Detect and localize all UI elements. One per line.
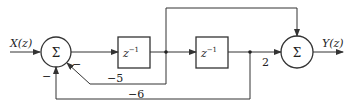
output-label: Y(z): [322, 37, 344, 50]
input-label: X(z): [9, 37, 32, 50]
feedforward-path: [166, 8, 297, 52]
sign-feedback-1: −: [72, 58, 81, 71]
feedback-path-2: [56, 52, 250, 99]
gain-feedback-1: −5: [107, 72, 123, 85]
summer2-symbol: Σ: [293, 46, 301, 60]
summer1-symbol: Σ: [52, 46, 60, 60]
block-diagram: X(z) Σ Σ z−1 z−1 Y(z) −5 −6 2 − −: [0, 0, 348, 111]
junction-1: [164, 50, 168, 54]
sign-feedback-2: −: [42, 70, 51, 83]
gain-feedback-2: −6: [128, 88, 144, 101]
junction-2: [248, 50, 252, 54]
gain-forward: 2: [262, 56, 269, 69]
delay2-label: z−1: [200, 46, 217, 60]
delay1-label: z−1: [122, 46, 139, 60]
